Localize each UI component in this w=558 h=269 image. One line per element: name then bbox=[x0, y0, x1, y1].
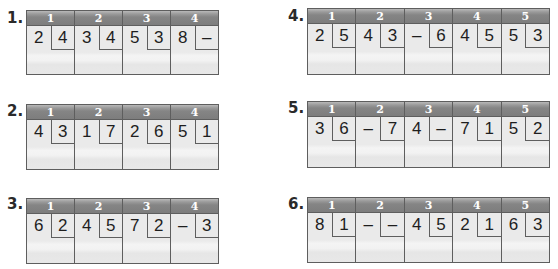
column-body: 21 bbox=[453, 213, 500, 262]
left-value: 2 bbox=[27, 26, 51, 50]
right-box-value: 5 bbox=[429, 213, 453, 237]
column-header: 4 bbox=[171, 199, 218, 214]
column-header: 4 bbox=[453, 102, 500, 117]
left-value: – bbox=[356, 117, 380, 141]
left-value: 6 bbox=[502, 213, 526, 237]
column-body: 81 bbox=[308, 213, 355, 262]
column-body: –7 bbox=[356, 117, 403, 167]
column-body: –6 bbox=[405, 24, 452, 74]
right-box-value: 1 bbox=[477, 213, 501, 237]
column-body: 26 bbox=[123, 120, 170, 169]
column-header: 1 bbox=[308, 9, 355, 24]
column-header: 2 bbox=[75, 199, 122, 214]
right-box-value: 1 bbox=[477, 117, 501, 141]
grid-column: 353 bbox=[123, 11, 171, 74]
right-box-value: 3 bbox=[147, 26, 171, 50]
grid-column: 451 bbox=[171, 105, 218, 169]
column-body: 62 bbox=[27, 214, 74, 263]
score-grid: 125 243 3–6 445 553 bbox=[307, 8, 550, 75]
column-body: 45 bbox=[75, 214, 122, 263]
left-value: – bbox=[171, 214, 195, 238]
left-value: 1 bbox=[75, 120, 99, 144]
column-body: 8– bbox=[171, 26, 218, 74]
column-body: 36 bbox=[308, 117, 355, 167]
grid-column: 4–3 bbox=[171, 199, 218, 263]
grid-column: 162 bbox=[27, 199, 75, 263]
left-value: 5 bbox=[502, 117, 526, 141]
left-value: 7 bbox=[123, 214, 147, 238]
left-value: 4 bbox=[27, 120, 51, 144]
grid-column: 552 bbox=[502, 102, 549, 167]
column-header: 5 bbox=[502, 9, 549, 24]
column-body: 34 bbox=[75, 26, 122, 74]
left-value: – bbox=[356, 213, 380, 237]
column-body: 4– bbox=[405, 117, 452, 167]
column-header: 1 bbox=[27, 199, 74, 214]
left-value: 4 bbox=[75, 214, 99, 238]
right-box-value: 7 bbox=[99, 120, 123, 144]
left-value: 2 bbox=[308, 24, 332, 48]
right-box-value: 3 bbox=[525, 24, 549, 48]
left-value: 5 bbox=[123, 26, 147, 50]
score-grid: 181 2–– 345 421 563 bbox=[307, 197, 550, 263]
right-box-value: 6 bbox=[147, 120, 171, 144]
column-body: 17 bbox=[75, 120, 122, 169]
left-value: 6 bbox=[27, 214, 51, 238]
right-box-value: – bbox=[380, 213, 404, 237]
right-box-value: 2 bbox=[147, 214, 171, 238]
grid-column: 3–6 bbox=[405, 9, 453, 74]
problem-number: 2. bbox=[7, 104, 23, 119]
right-box-value: – bbox=[429, 117, 453, 141]
left-value: 7 bbox=[453, 117, 477, 141]
right-box-value: 6 bbox=[429, 24, 453, 48]
column-header: 2 bbox=[356, 9, 403, 24]
grid-column: 326 bbox=[123, 105, 171, 169]
column-header: 3 bbox=[123, 105, 170, 120]
grid-column: 245 bbox=[75, 199, 123, 263]
left-value: 2 bbox=[123, 120, 147, 144]
problem-number: 5. bbox=[288, 101, 304, 116]
column-body: 51 bbox=[171, 120, 218, 169]
column-header: 4 bbox=[171, 11, 218, 26]
right-box-value: 3 bbox=[525, 213, 549, 237]
problem-number: 3. bbox=[7, 197, 23, 212]
column-body: –– bbox=[356, 213, 403, 262]
left-value: 2 bbox=[453, 213, 477, 237]
column-body: 43 bbox=[27, 120, 74, 169]
right-box-value: 5 bbox=[332, 24, 356, 48]
column-header: 2 bbox=[75, 11, 122, 26]
column-body: 71 bbox=[453, 117, 500, 167]
right-box-value: 1 bbox=[332, 213, 356, 237]
grid-column: 243 bbox=[356, 9, 404, 74]
right-box-value: 1 bbox=[195, 120, 219, 144]
column-header: 1 bbox=[308, 198, 355, 213]
grid-column: 421 bbox=[453, 198, 501, 262]
right-box-value: 7 bbox=[380, 117, 404, 141]
column-body: 53 bbox=[502, 24, 549, 74]
problem-number: 1. bbox=[7, 11, 23, 26]
column-header: 4 bbox=[453, 9, 500, 24]
left-value: 8 bbox=[308, 213, 332, 237]
column-body: 43 bbox=[356, 24, 403, 74]
column-header: 3 bbox=[405, 102, 452, 117]
grid-column: 2–– bbox=[356, 198, 404, 262]
score-grid: 143 217 326 451 bbox=[26, 104, 219, 170]
grid-column: 124 bbox=[27, 11, 75, 74]
grid-column: 181 bbox=[308, 198, 356, 262]
grid-column: 217 bbox=[75, 105, 123, 169]
score-grid: 136 2–7 34– 471 552 bbox=[307, 101, 550, 168]
left-value: 4 bbox=[405, 213, 429, 237]
column-body: 25 bbox=[308, 24, 355, 74]
right-box-value: 2 bbox=[51, 214, 75, 238]
column-header: 3 bbox=[405, 198, 452, 213]
left-value: 4 bbox=[356, 24, 380, 48]
column-body: –3 bbox=[171, 214, 218, 263]
column-header: 1 bbox=[27, 105, 74, 120]
right-box-value: 3 bbox=[380, 24, 404, 48]
column-header: 1 bbox=[308, 102, 355, 117]
column-body: 72 bbox=[123, 214, 170, 263]
left-value: 8 bbox=[171, 26, 195, 50]
score-grid: 162 245 372 4–3 bbox=[26, 198, 219, 264]
right-box-value: 5 bbox=[477, 24, 501, 48]
right-box-value: 6 bbox=[332, 117, 356, 141]
